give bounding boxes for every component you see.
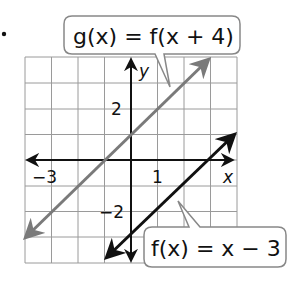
tick-y-neg2: −2 xyxy=(99,202,124,222)
callout-g: g(x) = f(x + 4) xyxy=(64,16,240,87)
tick-y-2: 2 xyxy=(111,99,122,119)
callout-g-text: g(x) = f(x + 4) xyxy=(73,24,234,49)
tick-x-1: 1 xyxy=(152,167,163,187)
callout-f: f(x) = x − 3 xyxy=(144,201,286,267)
graph-figure: x y −3 1 2 −2 g(x) = f(x + 4) f(x) = x −… xyxy=(0,0,301,282)
y-axis-label: y xyxy=(138,61,150,81)
callout-f-text: f(x) = x − 3 xyxy=(151,236,281,261)
tick-x-neg3: −3 xyxy=(32,167,57,187)
bullet-dot xyxy=(2,32,6,36)
x-axis-label: x xyxy=(222,167,234,187)
